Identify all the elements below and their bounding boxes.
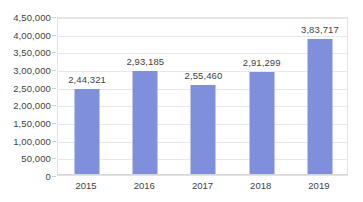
y-axis-tick-mark [52, 176, 56, 177]
y-axis-tick-label: 1,50,000 [13, 118, 51, 129]
bars-container: 2,44,3212,93,1852,55,4602,91,2993,83,717 [58, 18, 347, 175]
x-axis: 20152016201720182019 [57, 180, 348, 198]
y-axis-tick-label: 0 [46, 171, 51, 182]
bar-chart: 050,0001,00,0001,50,0002,00,0002,50,0003… [0, 0, 363, 202]
y-axis-tick-mark [52, 17, 56, 18]
y-axis-tick-label: 2,50,000 [13, 82, 51, 93]
y-axis-tick-mark [52, 35, 56, 36]
bar-group: 2,93,185 [116, 18, 174, 175]
bar-value-label: 2,91,299 [243, 57, 281, 68]
x-axis-category-label: 2015 [76, 180, 97, 191]
bar-group: 2,44,321 [58, 18, 116, 175]
bar-value-label: 2,44,321 [68, 74, 106, 85]
x-axis-category-label: 2018 [250, 180, 271, 191]
y-axis-tick-label: 3,50,000 [13, 47, 51, 58]
bar-value-label: 2,93,185 [126, 56, 164, 67]
y-axis-tick-mark [52, 123, 56, 124]
bar[interactable] [191, 85, 216, 175]
x-axis-category-label: 2016 [134, 180, 155, 191]
bar-group: 3,83,717 [291, 18, 349, 175]
y-axis-tick-label: 1,00,000 [13, 135, 51, 146]
y-axis-tick-mark [52, 141, 56, 142]
plot-area: 2,44,3212,93,1852,55,4602,91,2993,83,717 [57, 17, 348, 176]
y-axis-tick-label: 4,50,000 [13, 12, 51, 23]
y-axis-tick-label: 2,00,000 [13, 100, 51, 111]
y-axis-tick-label: 4,00,000 [13, 29, 51, 40]
bar-group: 2,55,460 [174, 18, 232, 175]
bar[interactable] [133, 71, 158, 175]
y-axis-tick-mark [52, 70, 56, 71]
bar-value-label: 3,83,717 [301, 24, 339, 35]
bar[interactable] [249, 72, 274, 175]
y-axis-tick-mark [52, 105, 56, 106]
y-axis-tick-mark [52, 52, 56, 53]
bar[interactable] [307, 39, 332, 175]
x-axis-category-label: 2017 [192, 180, 213, 191]
y-axis-tick-label: 3,00,000 [13, 65, 51, 76]
y-axis-tick-mark [52, 88, 56, 89]
y-axis-tick-label: 50,000 [21, 153, 51, 164]
axis-baseline [58, 174, 347, 175]
y-axis: 050,0001,00,0001,50,0002,00,0002,50,0003… [0, 17, 51, 176]
bar-value-label: 2,55,460 [185, 70, 223, 81]
x-axis-category-label: 2019 [308, 180, 329, 191]
bar-group: 2,91,299 [233, 18, 291, 175]
y-axis-tick-mark [52, 158, 56, 159]
bar[interactable] [75, 89, 100, 175]
